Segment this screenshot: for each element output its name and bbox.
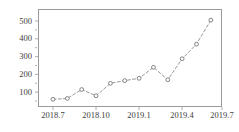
data-point [166, 78, 170, 82]
data-point [51, 97, 55, 101]
data-point [123, 79, 127, 83]
data-point [152, 65, 156, 69]
chart-figure: 500 400 300 200 100 2018.7 2018.10 2019.… [0, 0, 239, 132]
data-point [65, 97, 69, 101]
data-point [94, 94, 98, 98]
data-point [195, 42, 199, 46]
data-point [209, 18, 213, 22]
data-point-markers [51, 18, 213, 101]
data-series-line [53, 20, 211, 99]
data-point [109, 81, 113, 85]
y-tick-marks [35, 21, 38, 101]
data-point [137, 76, 141, 80]
data-point [180, 57, 184, 61]
plot-canvas [0, 0, 239, 132]
data-point [80, 88, 84, 92]
x-tick-marks [53, 107, 222, 110]
